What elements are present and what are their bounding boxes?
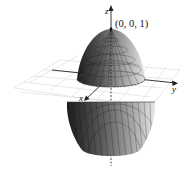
z-axis-label: z (105, 7, 109, 16)
vertex-point (110, 28, 113, 31)
hyperboloid-diagram (0, 0, 186, 172)
z-axis-arrow-icon (109, 5, 114, 11)
y-axis-label: y (172, 85, 176, 94)
lower-sheet (67, 102, 155, 157)
x-axis (86, 86, 100, 99)
x-axis-label: x (79, 94, 83, 103)
vertex-label: (0, 0, 1) (115, 19, 148, 30)
